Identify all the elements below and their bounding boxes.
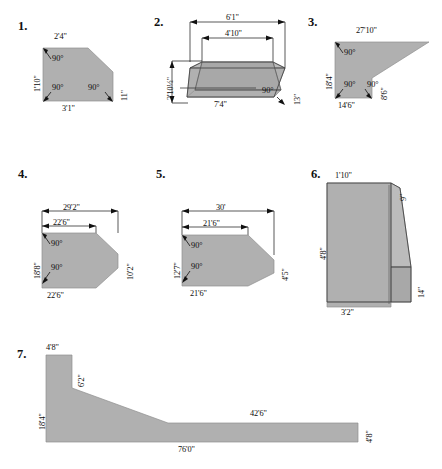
figure-5-dim-bottom: 21'6"	[190, 289, 207, 298]
figure-7: 7. 4'8" 6'2" 18'4" 42'6" 76'0" 4'8"	[0, 335, 442, 469]
figure-4-arrow-outer-l	[42, 209, 49, 214]
figure-3-dim-left: 18'4"	[325, 73, 334, 90]
figure-5-arrow-outer-l	[182, 209, 189, 214]
figure-3-drawing	[305, 0, 442, 140]
figure-5-drawing	[150, 155, 305, 320]
figure-4-angle-bottom-left: 90°	[51, 263, 63, 272]
figure-4-dim-left: 18'8"	[33, 262, 42, 279]
figure-4-dim-bottom: 22'6"	[47, 291, 64, 300]
figure-2-arrow-h-top	[170, 61, 175, 68]
figure-6-lower-block	[391, 267, 411, 302]
figure-6-dim-left: 4'8"	[319, 247, 328, 260]
figure-2-arrow-outer-r	[278, 20, 285, 25]
figure-5-arrow-outer-r	[267, 209, 274, 214]
figure-5-dim-inner-top: 21'6"	[203, 219, 220, 228]
figure-4-arrow-inner-r	[89, 224, 96, 229]
figure-6: 6. 1'10" 9" 4'8" 3'2" 14"	[305, 155, 442, 320]
figure-7-dim-top-left: 4'8"	[46, 343, 59, 352]
figure-4-angle-top-left: 90°	[51, 239, 63, 248]
figure-4-dim-overall-top: 29'2"	[63, 203, 80, 212]
figure-6-dim-right: 14"	[417, 287, 426, 298]
figure-2-dim-outer-top: 6'1"	[226, 13, 239, 22]
figure-2: 2.	[150, 0, 305, 140]
figure-5-dim-overall-top: 30'	[216, 203, 226, 212]
figure-4-arrow-outer-r	[111, 209, 118, 214]
figure-1-angle-bottom-left: 90°	[52, 83, 64, 92]
figure-1-dim-right: 11"	[120, 90, 129, 101]
figure-5-angle-top-left: 90°	[191, 241, 203, 250]
figure-1-drawing	[0, 0, 150, 140]
figure-3-angle-bottom-right: 90°	[367, 80, 379, 89]
figure-3-angle-bottom-left: 90°	[344, 80, 356, 89]
figure-1-dim-left: 1'10"	[33, 75, 42, 92]
worksheet-sheet: 1. 2'4" 1'10" 3'1" 11" 90° 90° 90° 2.	[0, 0, 442, 469]
figure-7-dim-right: 4'8"	[365, 430, 374, 443]
figure-2-dim-right: 13"	[293, 94, 302, 105]
figure-2-angle-bottom-right: 90°	[262, 86, 274, 95]
figure-4: 4. 29'2" 22'6" 18'8" 10'2" 22'6" 90	[0, 155, 150, 320]
figure-5: 5. 30' 21'6" 12'7" 4'5" 21'6" 90°	[150, 155, 305, 320]
figure-2-arrow-angle	[278, 99, 285, 105]
figure-2-dim-bottom: 7'4"	[214, 100, 227, 109]
figure-1-dim-bottom: 3'1"	[62, 104, 75, 113]
figure-3: 3. 27'10" 18'4" 14'6" 8'6" 90° 90° 90°	[305, 0, 442, 140]
figure-1: 1. 2'4" 1'10" 3'1" 11" 90° 90° 90°	[0, 0, 150, 140]
figure-7-dim-upper-right: 42'6"	[250, 409, 267, 418]
figure-2-arrow-inner-l	[202, 36, 209, 41]
figure-4-drawing	[0, 155, 150, 320]
figure-7-dim-bottom: 76'0"	[178, 445, 195, 454]
figure-6-left-face	[327, 183, 391, 302]
figure-7-dim-step: 6'2"	[77, 374, 86, 387]
figure-1-angle-top-left: 90°	[52, 54, 64, 63]
figure-7-drawing	[0, 335, 442, 469]
figure-2-dim-inner-top: 4'10"	[225, 29, 242, 38]
figure-1-dim-top: 2'4"	[54, 32, 67, 41]
figure-5-dim-left: 12'7"	[173, 262, 182, 279]
figure-5-dim-right: 4'5"	[281, 268, 290, 281]
figure-6-dim-top-right: 9"	[399, 194, 408, 201]
figure-2-arrow-inner-r	[266, 36, 273, 41]
figure-7-dim-left: 18'4"	[38, 413, 47, 430]
figure-4-arrow-inner-l	[42, 224, 49, 229]
figure-4-dim-inner-top: 22'6"	[53, 218, 70, 227]
figure-3-dim-bottom: 14'6"	[338, 101, 355, 110]
figure-3-dim-right: 8'6"	[380, 87, 389, 100]
figure-3-angle-top-left: 90°	[344, 48, 356, 57]
figure-6-dim-bottom: 3'2"	[341, 308, 354, 317]
figure-4-dim-right: 10'2"	[126, 263, 135, 280]
figure-5-arrow-inner-r	[241, 225, 248, 230]
figure-2-arrow-outer-l	[190, 20, 197, 25]
figure-5-angle-bottom-left: 90°	[191, 262, 203, 271]
figure-3-dim-top: 27'10"	[356, 26, 377, 35]
figure-7-polygon	[46, 355, 358, 442]
figure-1-angle-bottom-right: 90°	[88, 83, 100, 92]
figure-6-bottom-sliver	[327, 302, 391, 307]
figure-5-arrow-inner-l	[182, 225, 189, 230]
figure-2-dim-height: 2'10½"	[166, 77, 175, 100]
figure-6-dim-top: 1'10"	[335, 171, 352, 180]
